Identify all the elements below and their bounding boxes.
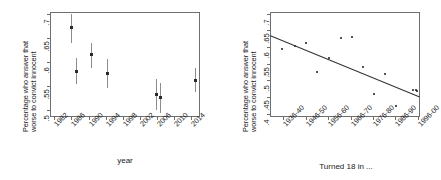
data-point bbox=[70, 26, 73, 29]
y-tick-label: .4 bbox=[262, 113, 271, 131]
data-point bbox=[351, 36, 353, 38]
plot-area-right bbox=[270, 12, 420, 117]
y-tick-label: .6 bbox=[42, 62, 51, 80]
y-tick-label: .65 bbox=[262, 30, 271, 48]
y-axis-title-right-line2: worse to convict innocent bbox=[250, 41, 258, 132]
x-axis-title-right: Turned 18 in ... bbox=[266, 162, 426, 171]
data-point bbox=[362, 66, 364, 68]
y-axis-title-left-line2: worse to convict innocent bbox=[30, 41, 38, 132]
data-point bbox=[340, 37, 342, 39]
y-axis-title-left: Percentage who answer that worse to conv… bbox=[22, 41, 39, 132]
data-point bbox=[90, 53, 93, 56]
y-tick-label: .7 bbox=[42, 14, 51, 32]
chart-panel-left: Percentage who answer that worse to conv… bbox=[0, 0, 218, 180]
chart-panel-right: Percentage who answer that worse to conv… bbox=[218, 0, 437, 180]
y-tick-label: .5 bbox=[262, 80, 271, 98]
y-axis-title-right: Percentage who answer that worse to conv… bbox=[242, 41, 259, 132]
y-tick-label: .45 bbox=[262, 97, 271, 115]
y-tick-label: .65 bbox=[42, 38, 51, 56]
y-tick-label: .55 bbox=[42, 85, 51, 103]
y-tick-label: .55 bbox=[262, 63, 271, 81]
y-tick-label: .5 bbox=[42, 109, 51, 127]
data-point bbox=[75, 70, 78, 73]
data-point bbox=[194, 79, 197, 82]
data-point bbox=[159, 96, 162, 99]
data-point bbox=[106, 72, 109, 75]
y-tick-label: .7 bbox=[262, 13, 271, 31]
x-axis-title-left: year bbox=[50, 156, 200, 165]
data-point bbox=[373, 93, 375, 95]
y-tick-label: .6 bbox=[262, 47, 271, 65]
